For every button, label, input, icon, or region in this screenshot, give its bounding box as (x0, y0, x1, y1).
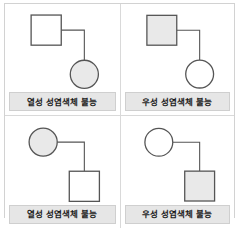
child-symbol-square-unshaded (69, 172, 99, 202)
panel-caption-top-left: 열성 성염색체 불능 (9, 92, 116, 111)
child-symbol-circle-shaded (70, 60, 98, 88)
pedigree-svg-top-left (5, 4, 120, 92)
panel-caption-bottom-left: 열성 성염색체 불능 (9, 205, 116, 224)
parent-symbol-circle-shaded (29, 128, 57, 156)
pedigree-diagram-top-right (121, 4, 235, 92)
pedigree-diagram-top-left (5, 4, 120, 92)
panel-caption-top-right: 우성 성염색체 불능 (125, 92, 231, 111)
connector-line (61, 30, 84, 60)
connector-line (57, 142, 84, 171)
child-symbol-circle-unshaded (185, 60, 213, 88)
parent-symbol-circle-unshaded (144, 129, 172, 157)
pedigree-panel-bottom-left: 열성 성염색체 불능 (5, 115, 120, 226)
pedigree-panel-top-left: 열성 성염색체 불능 (5, 4, 120, 115)
parent-symbol-square-shaded (146, 15, 176, 45)
pedigree-panel-bottom-right: 우성 성염색체 불능 (120, 115, 235, 226)
pedigree-svg-bottom-right (121, 116, 235, 204)
child-symbol-square-shaded (184, 172, 214, 202)
pedigree-svg-top-right (121, 4, 235, 92)
panel-caption-bottom-right: 우성 성염색체 불능 (125, 205, 231, 224)
connector-line (176, 30, 199, 60)
pedigree-diagram-bottom-right (121, 116, 235, 204)
pedigree-panel-top-right: 우성 성염색체 불능 (120, 4, 235, 115)
pedigree-svg-bottom-left (5, 116, 120, 204)
connector-line (172, 143, 199, 172)
figure-frame: 열성 성염색체 불능 우성 성염색체 불능 (4, 3, 235, 218)
pedigree-grid: 열성 성염색체 불능 우성 성염색체 불능 (5, 4, 234, 217)
parent-symbol-square-unshaded (31, 15, 61, 45)
pedigree-diagram-bottom-left (5, 116, 120, 204)
